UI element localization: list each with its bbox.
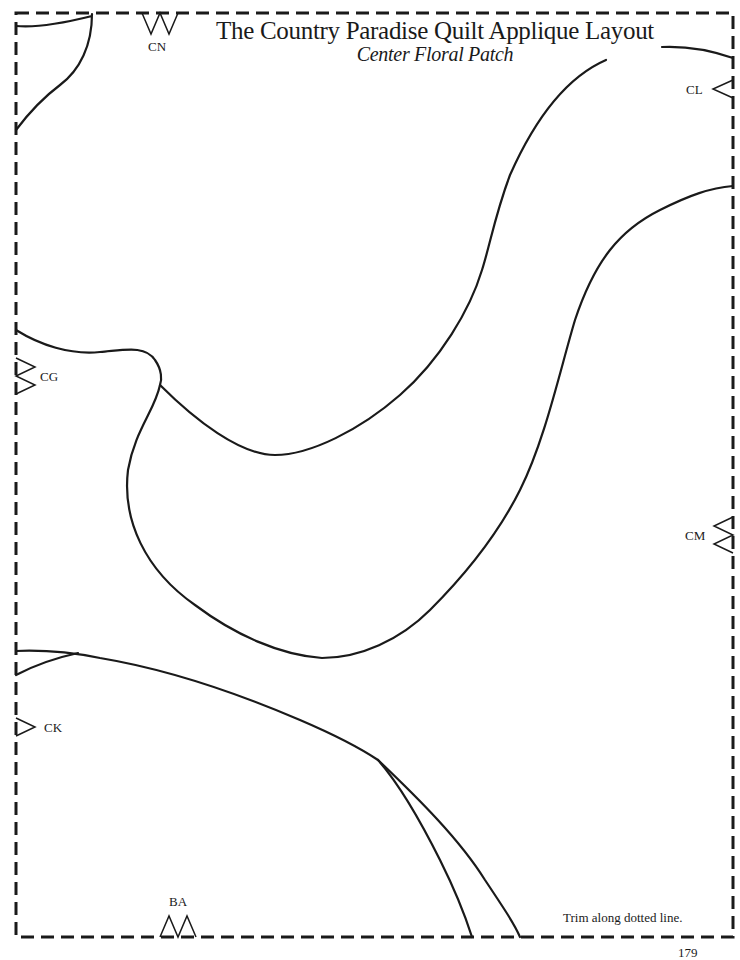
top-right-arc bbox=[662, 47, 733, 58]
lower-branch-curve bbox=[378, 760, 472, 937]
page-title: The Country Paradise Quilt Applique Layo… bbox=[200, 17, 670, 45]
notch-ck-icon bbox=[16, 718, 35, 736]
lower-long-curve bbox=[16, 651, 520, 937]
leaf-lower-edge bbox=[127, 186, 733, 658]
corner-piece-outline bbox=[16, 14, 92, 130]
lower-left-bump bbox=[16, 653, 78, 675]
marker-label-cl: CL bbox=[686, 83, 703, 97]
marker-label-cg: CG bbox=[40, 370, 58, 384]
notch-cn-icon bbox=[142, 13, 178, 34]
notch-cm-icon bbox=[714, 517, 733, 553]
marker-label-cm: CM bbox=[685, 529, 705, 543]
stem-upper-curve bbox=[160, 60, 606, 455]
marker-label-ba: BA bbox=[169, 895, 187, 909]
leaf-top-edge bbox=[16, 330, 161, 385]
marker-label-cn: CN bbox=[148, 40, 166, 54]
notch-cl-icon bbox=[713, 80, 733, 98]
notch-cg-icon bbox=[16, 358, 35, 394]
trim-instruction: Trim along dotted line. bbox=[563, 911, 682, 925]
page-number: 179 bbox=[678, 946, 698, 960]
notch-ba-icon bbox=[160, 916, 196, 937]
marker-label-ck: CK bbox=[44, 721, 62, 735]
trim-border bbox=[16, 13, 733, 937]
page-subtitle: Center Floral Patch bbox=[200, 43, 670, 65]
